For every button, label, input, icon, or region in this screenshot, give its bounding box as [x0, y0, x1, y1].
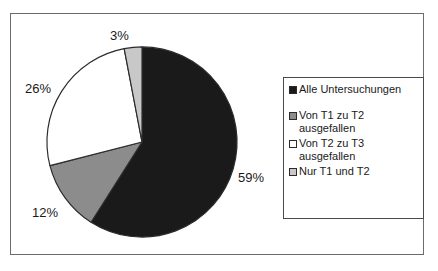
legend-swatch-icon — [289, 112, 297, 120]
legend-item-label: Alle Untersuchungen — [299, 83, 401, 96]
legend: Alle UntersuchungenVon T1 zu T2 ausgefal… — [283, 77, 424, 219]
pie-svg — [44, 44, 240, 240]
legend-swatch-icon — [289, 168, 297, 176]
pie-label-von-t2-zu-t3: 26% — [25, 81, 51, 96]
legend-item[interactable]: Nur T1 und T2 — [289, 165, 420, 178]
legend-swatch-icon — [289, 86, 297, 94]
pie-label-nur-t1-und-t2: 3% — [110, 28, 129, 43]
pie-label-von-t1-zu-t2: 12% — [32, 205, 58, 220]
legend-item-label: Nur T1 und T2 — [299, 165, 370, 178]
legend-item[interactable]: Von T1 zu T2 ausgefallen — [289, 109, 420, 135]
pie-label-alle-untersuchungen: 59% — [238, 170, 264, 185]
legend-item[interactable]: Alle Untersuchungen — [289, 83, 420, 96]
legend-list: Alle UntersuchungenVon T1 zu T2 ausgefal… — [289, 83, 420, 180]
legend-swatch-icon — [289, 140, 297, 148]
pie-chart — [44, 44, 240, 240]
chart-figure: 3% 26% 12% 59% Alle UntersuchungenVon T1… — [0, 0, 438, 271]
legend-item-label: Von T1 zu T2 ausgefallen — [299, 109, 364, 135]
legend-item-label: Von T2 zu T3 ausgefallen — [299, 137, 364, 163]
legend-item[interactable]: Von T2 zu T3 ausgefallen — [289, 137, 420, 163]
pie-slice-group — [47, 47, 237, 237]
figure-frame: 3% 26% 12% 59% Alle UntersuchungenVon T1… — [10, 13, 424, 255]
